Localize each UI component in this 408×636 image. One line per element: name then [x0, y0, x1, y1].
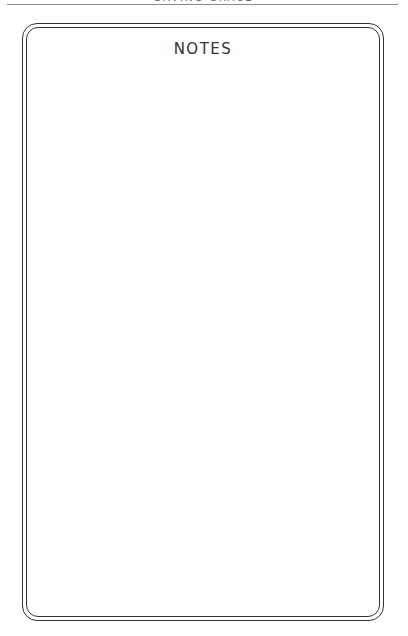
- notes-box: NOTES: [22, 23, 384, 621]
- header-rule: [7, 4, 398, 5]
- notes-box-inner-border: [26, 27, 380, 617]
- notes-title: NOTES: [23, 40, 383, 58]
